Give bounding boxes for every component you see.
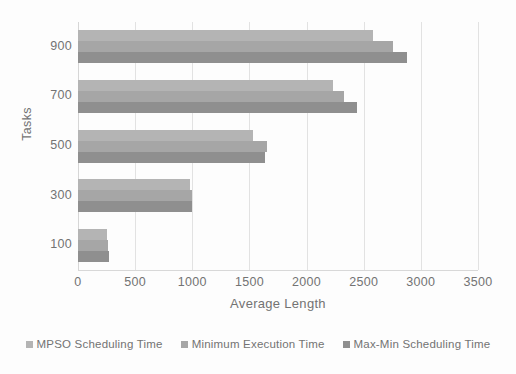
bar-group: [78, 80, 478, 113]
bar-chart: 900700500300100 050010001500200025003000…: [0, 0, 516, 374]
x-axis-tick-labels: 0500100015002000250030003500: [78, 275, 478, 293]
bar: [78, 179, 190, 190]
legend-swatch-icon: [181, 341, 188, 348]
bar-group: [78, 229, 478, 262]
x-axis-tick-label: 1500: [219, 275, 279, 289]
bar-group: [78, 30, 478, 63]
y-axis-tick-label: 500: [32, 138, 72, 152]
x-axis-tick-label: 2000: [277, 275, 337, 289]
bar: [78, 141, 267, 152]
legend-swatch-icon: [343, 341, 350, 348]
chart-legend: MPSO Scheduling TimeMinimum Execution Ti…: [0, 338, 516, 350]
legend-item-label: Max-Min Scheduling Time: [354, 338, 491, 350]
x-axis-tick-label: 0: [48, 275, 108, 289]
legend-item[interactable]: MPSO Scheduling Time: [26, 338, 163, 350]
x-axis-tick-label: 500: [105, 275, 165, 289]
bar: [78, 229, 107, 240]
x-axis-tick-label: 2500: [334, 275, 394, 289]
plot-area: [78, 22, 478, 270]
x-axis-title: Average Length: [78, 296, 478, 311]
x-axis-tick-label: 3000: [391, 275, 451, 289]
y-axis-tick-label: 100: [32, 237, 72, 251]
bar: [78, 190, 192, 201]
legend-item[interactable]: Max-Min Scheduling Time: [343, 338, 491, 350]
bar: [78, 30, 373, 41]
x-axis-tick-label: 3500: [448, 275, 508, 289]
bar: [78, 240, 108, 251]
y-axis-tick-labels: 900700500300100: [28, 22, 72, 270]
bar-group: [78, 179, 478, 212]
y-axis-tick-label: 900: [32, 39, 72, 53]
bar: [78, 52, 407, 63]
gridline: [478, 22, 479, 270]
legend-item-label: Minimum Execution Time: [192, 338, 325, 350]
bar: [78, 102, 357, 113]
bar: [78, 80, 333, 91]
legend-item[interactable]: Minimum Execution Time: [181, 338, 325, 350]
y-axis-title: Tasks: [20, 107, 34, 140]
bar: [78, 251, 109, 262]
x-axis-line: [78, 270, 478, 271]
legend-swatch-icon: [26, 341, 33, 348]
bar: [78, 130, 253, 141]
y-axis-tick-label: 300: [32, 188, 72, 202]
legend-item-label: MPSO Scheduling Time: [37, 338, 163, 350]
bar: [78, 91, 344, 102]
bar-group: [78, 130, 478, 163]
bar: [78, 41, 393, 52]
bar: [78, 152, 265, 163]
x-axis-tick-label: 1000: [162, 275, 222, 289]
y-axis-tick-label: 700: [32, 88, 72, 102]
bar: [78, 201, 192, 212]
